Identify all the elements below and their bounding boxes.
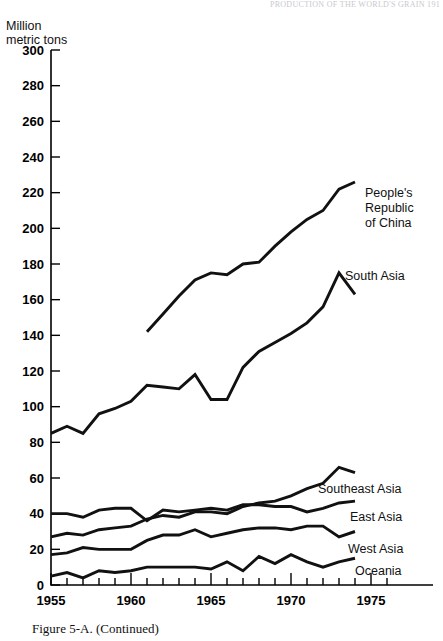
x-tick-label: 1975 xyxy=(357,593,386,608)
series-label-east-asia: East Asia xyxy=(350,510,402,524)
y-tick-label: 100 xyxy=(22,399,44,414)
series-label-people-s-republic-of-china: People'sRepublicof China xyxy=(365,186,414,230)
y-tick-label: 240 xyxy=(22,150,44,165)
y-tick-label: 20 xyxy=(30,542,44,557)
y-axis-tick-labels: 0204060801001201401601802002202402602803… xyxy=(22,43,44,593)
y-tick-label: 140 xyxy=(22,328,44,343)
y-tick-label: 60 xyxy=(30,471,44,486)
series-label-southeast-asia: Southeast Asia xyxy=(318,482,401,496)
y-tick-label: 180 xyxy=(22,257,44,272)
y-tick-label: 280 xyxy=(22,78,44,93)
series-line-people-s-republic-of-china xyxy=(147,182,355,332)
y-tick-label: 300 xyxy=(22,43,44,58)
series-line-oceania xyxy=(51,555,355,578)
chart-plot-area: 0204060801001201401601802002202402602803… xyxy=(0,0,443,641)
chart-series-labels: People'sRepublicof ChinaSouth AsiaSouthe… xyxy=(318,186,414,578)
y-tick-label: 200 xyxy=(22,221,44,236)
y-tick-label: 120 xyxy=(22,364,44,379)
figure-caption: Figure 5-A. (Continued) xyxy=(32,621,159,637)
y-tick-label: 220 xyxy=(22,185,44,200)
series-line-south-asia xyxy=(51,273,355,434)
y-tick-label: 260 xyxy=(22,114,44,129)
x-axis-tick-labels: 19551960196519701975 xyxy=(37,593,386,608)
chart-series-lines xyxy=(51,182,355,578)
x-tick-label: 1965 xyxy=(197,593,226,608)
x-tick-label: 1955 xyxy=(37,593,66,608)
x-tick-label: 1960 xyxy=(117,593,146,608)
series-label-west-asia: West Asia xyxy=(348,542,403,556)
series-label-south-asia: South Asia xyxy=(345,269,405,283)
y-tick-label: 0 xyxy=(37,578,44,593)
y-tick-label: 160 xyxy=(22,292,44,307)
x-tick-label: 1970 xyxy=(277,593,306,608)
line-chart-svg: 0204060801001201401601802002202402602803… xyxy=(0,0,443,641)
y-tick-label: 80 xyxy=(30,435,44,450)
series-label-oceania: Oceania xyxy=(355,564,402,578)
y-tick-label: 40 xyxy=(30,506,44,521)
